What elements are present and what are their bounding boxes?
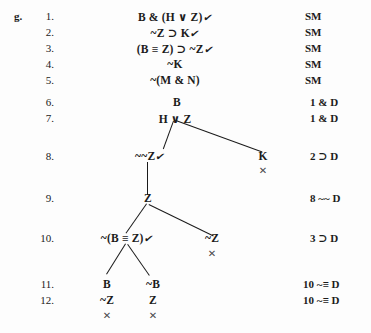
formula-text: Z <box>144 192 152 204</box>
closure-mark: ✕ <box>103 310 111 321</box>
closure-mark: ✕ <box>208 248 216 259</box>
formula-node: B & (H ∨ Z)✔ <box>138 10 212 24</box>
formula-text: H ∨ Z <box>159 113 192 125</box>
line-number: 2. <box>28 26 54 38</box>
check-icon: ✔ <box>202 12 214 23</box>
formula-node: ~Z ⊃ K✔ <box>151 26 200 40</box>
formula-text: ~K <box>167 58 182 70</box>
formula-node: ~~Z✔ <box>135 150 165 162</box>
check-icon: ✔ <box>189 28 201 39</box>
check-icon: ✔ <box>203 44 215 55</box>
formula-node: ~(M & N) <box>150 74 200 86</box>
formula-node: ~(B ≡ Z)✔ <box>101 232 153 244</box>
formula-node: ~B <box>146 278 160 290</box>
formula-text: B <box>103 278 111 290</box>
line-number: 9. <box>28 192 54 204</box>
line-number: 5. <box>28 74 54 86</box>
formula-node: B <box>173 96 181 108</box>
formula-node: Z <box>149 294 157 306</box>
justification: SM <box>305 26 322 38</box>
branch-line <box>149 204 214 236</box>
formula-node: ~Z <box>205 232 219 244</box>
justification: 1 & D <box>310 112 338 124</box>
closure-mark: ✕ <box>149 310 157 321</box>
justification: 8 ~~ D <box>310 192 340 204</box>
line-number: 8. <box>28 150 54 162</box>
formula-node: H ∨ Z <box>159 112 192 126</box>
formula-node: (B ≡ Z) ⊃ ~Z✔ <box>137 42 213 56</box>
formula-text: ~~Z <box>135 150 155 162</box>
justification: 10 ~≡ D <box>303 278 339 290</box>
check-icon: ✔ <box>143 233 155 244</box>
problem-letter: g. <box>14 10 22 22</box>
line-number: 4. <box>28 58 54 70</box>
formula-text: ~Z <box>100 294 114 306</box>
line-number: 12. <box>28 294 54 306</box>
line-number: 11. <box>28 278 54 290</box>
justification: SM <box>305 42 322 54</box>
line-number: 3. <box>28 42 54 54</box>
justification: 2 ⊃ D <box>310 150 338 163</box>
justification: SM <box>305 74 322 86</box>
line-number: 1. <box>28 10 54 22</box>
formula-text: ~(B ≡ Z) <box>101 232 144 244</box>
formula-text: K <box>258 150 267 162</box>
justification: 3 ⊃ D <box>310 232 338 245</box>
justification: 10 ~≡ D <box>303 294 339 306</box>
formula-node: Z <box>144 192 152 204</box>
formula-text: ~Z ⊃ K <box>151 27 190 39</box>
line-number: 6. <box>28 96 54 108</box>
formula-text: B <box>173 96 181 108</box>
formula-text: ~B <box>146 278 160 290</box>
truth-tree-proof: g. 1. 2. 3. 4. 5. 6. 7. 8. 9. 10. 11. 12… <box>0 0 371 333</box>
branch-line <box>127 244 150 276</box>
line-number: 7. <box>28 112 54 124</box>
formula-text: ~Z <box>205 232 219 244</box>
branch-line <box>126 203 147 233</box>
formula-text: B & (H ∨ Z) <box>138 11 203 23</box>
closure-mark: ✕ <box>259 165 267 176</box>
formula-node: K <box>258 150 267 162</box>
formula-text: (B ≡ Z) ⊃ ~Z <box>137 43 204 55</box>
formula-node: ~Z <box>100 294 114 306</box>
line-number: 10. <box>28 232 54 244</box>
formula-text: Z <box>149 294 157 306</box>
check-icon: ✔ <box>155 151 167 162</box>
formula-node: B <box>103 278 111 290</box>
justification: 1 & D <box>310 96 338 108</box>
formula-node: ~K <box>167 58 182 70</box>
branch-line <box>106 243 126 274</box>
branch-line <box>147 162 148 195</box>
justification: SM <box>305 58 322 70</box>
justification: SM <box>305 10 322 22</box>
formula-text: ~(M & N) <box>150 74 200 86</box>
